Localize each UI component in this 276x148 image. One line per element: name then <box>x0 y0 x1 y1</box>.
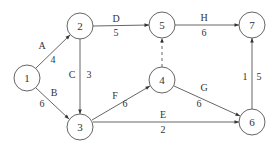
edge-i-duration: 5 <box>257 71 262 82</box>
node-1-label: 1 <box>24 72 30 84</box>
node-2-label: 2 <box>77 20 83 32</box>
edge-g-activity: G <box>200 82 207 93</box>
edge-b-activity: B <box>51 87 58 98</box>
edge-g-duration: 6 <box>197 98 202 109</box>
edge-f-activity: F <box>112 90 118 101</box>
edge-e-activity: E <box>160 109 166 120</box>
network-diagram: 1 2 3 4 5 6 7 A 4 B 6 C 3 D 5 E 2 F 6 G … <box>0 0 276 148</box>
edge-c-activity: C <box>69 69 76 80</box>
edge-a-activity: A <box>38 40 46 51</box>
edge-c-duration: 3 <box>87 69 92 80</box>
edge-a-duration: 4 <box>51 54 56 65</box>
node-4-label: 4 <box>159 74 165 86</box>
edge-b-duration: 6 <box>40 98 45 109</box>
edge-h-activity: H <box>200 12 207 23</box>
edge-f-duration: 6 <box>123 98 128 109</box>
node-6-label: 6 <box>249 116 255 128</box>
edge-i-activity: 1 <box>243 71 248 82</box>
edge-e-duration: 2 <box>161 124 166 135</box>
edge-h-duration: 6 <box>202 27 207 38</box>
node-7-label: 7 <box>249 19 255 31</box>
node-5-label: 5 <box>159 19 165 31</box>
edge-f <box>92 86 150 120</box>
node-3-label: 3 <box>77 121 83 133</box>
edge-d-duration: 5 <box>114 27 119 38</box>
edge-d-activity: D <box>112 13 119 24</box>
edge-d <box>93 25 149 26</box>
